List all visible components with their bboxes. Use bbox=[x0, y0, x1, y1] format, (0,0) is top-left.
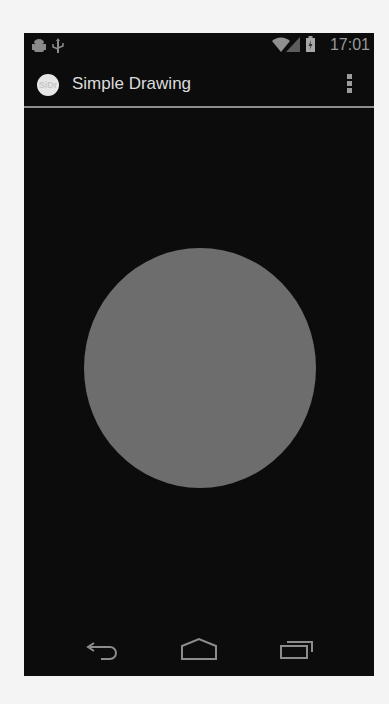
action-bar: SiDr Simple Drawing bbox=[24, 58, 374, 106]
signal-icon bbox=[286, 37, 300, 56]
navigation-bar bbox=[24, 628, 374, 676]
phone-screen: 17:01 SiDr Simple Drawing bbox=[24, 33, 374, 676]
overflow-menu-icon[interactable] bbox=[347, 74, 352, 94]
status-bar: 17:01 bbox=[24, 33, 374, 58]
android-debug-icon bbox=[32, 38, 46, 58]
status-time: 17:01 bbox=[330, 36, 370, 54]
home-icon[interactable] bbox=[180, 637, 218, 665]
app-icon[interactable]: SiDr bbox=[37, 74, 59, 96]
back-icon[interactable] bbox=[86, 640, 120, 666]
drawing-canvas[interactable] bbox=[24, 108, 374, 628]
usb-icon bbox=[52, 38, 64, 58]
battery-charging-icon bbox=[306, 36, 315, 56]
drawn-circle bbox=[84, 248, 316, 488]
recents-icon[interactable] bbox=[279, 638, 315, 664]
app-title: Simple Drawing bbox=[72, 74, 191, 94]
